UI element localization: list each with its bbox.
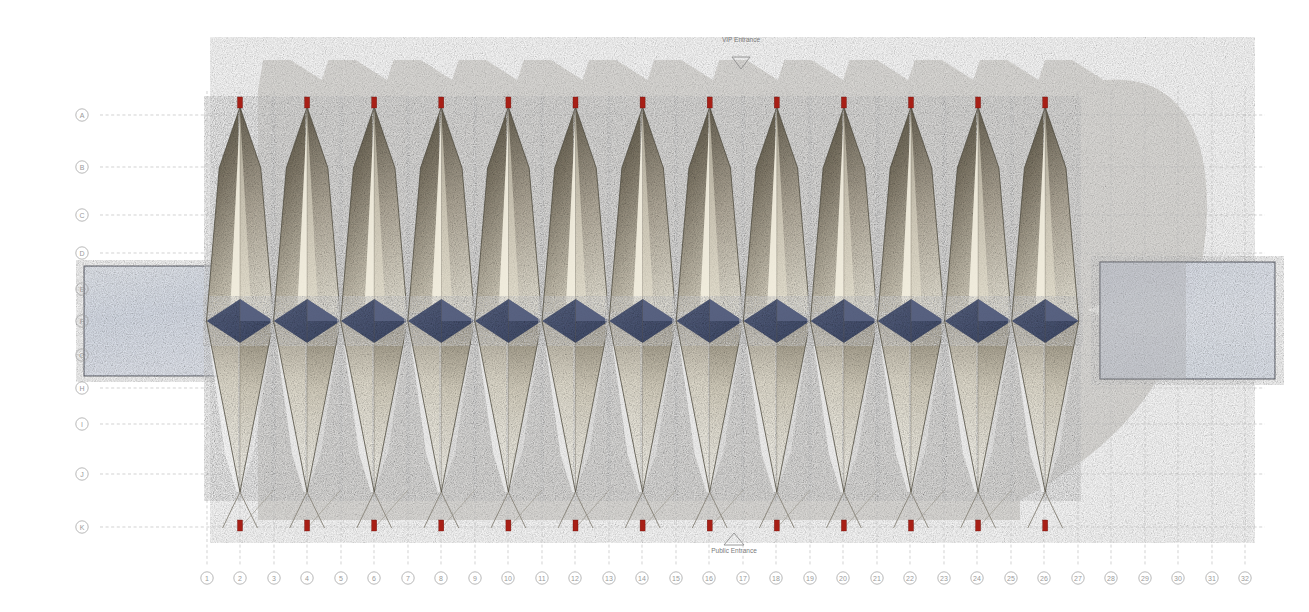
- grid-bubble-label: K: [80, 524, 85, 531]
- grid-bubble-label: 1: [205, 575, 209, 582]
- base-marker-bottom: [305, 520, 310, 531]
- grid-bubble-col-16[interactable]: 16: [703, 572, 715, 584]
- base-marker-bottom: [774, 520, 779, 531]
- grid-bubble-label: C: [79, 212, 84, 219]
- grid-bubble-col-14[interactable]: 14: [636, 572, 648, 584]
- grid-bubble-label: 3: [272, 575, 276, 582]
- grid-bubble-col-5[interactable]: 5: [335, 572, 347, 584]
- apex-marker-top: [573, 97, 578, 108]
- grid-bubble-label: 14: [638, 575, 646, 582]
- apex-marker-top: [640, 97, 645, 108]
- grid-bubble-label: 7: [406, 575, 410, 582]
- grid-bubble-col-29[interactable]: 29: [1139, 572, 1151, 584]
- grid-bubble-label: 6: [372, 575, 376, 582]
- apex-marker-top: [841, 97, 846, 108]
- grid-bubble-col-17[interactable]: 17: [737, 572, 749, 584]
- grid-bubble-col-26[interactable]: 26: [1038, 572, 1050, 584]
- grid-bubble-label: 22: [906, 575, 914, 582]
- grid-bubble-label: J: [80, 471, 84, 478]
- grid-bubble-col-3[interactable]: 3: [268, 572, 280, 584]
- grid-bubble-col-25[interactable]: 25: [1005, 572, 1017, 584]
- base-marker-bottom: [707, 520, 712, 531]
- grid-bubble-row-A[interactable]: A: [76, 109, 88, 121]
- apex-marker-top: [506, 97, 511, 108]
- grid-bubble-col-13[interactable]: 13: [603, 572, 615, 584]
- grid-bubble-label: 30: [1174, 575, 1182, 582]
- grid-bubble-col-15[interactable]: 15: [670, 572, 682, 584]
- grid-bubble-label: 19: [806, 575, 814, 582]
- grid-bubble-label: B: [80, 164, 85, 171]
- grid-bubble-label: E: [80, 286, 85, 293]
- grid-bubble-col-30[interactable]: 30: [1172, 572, 1184, 584]
- grid-bubble-label: 10: [504, 575, 512, 582]
- grid-bubble-label: I: [81, 421, 83, 428]
- grid-bubble-col-1[interactable]: 1: [201, 572, 213, 584]
- grid-bubble-row-J[interactable]: J: [76, 468, 88, 480]
- grid-bubble-col-6[interactable]: 6: [368, 572, 380, 584]
- grid-bubble-label: 23: [940, 575, 948, 582]
- apex-marker-top: [774, 97, 779, 108]
- grid-bubble-label: 5: [339, 575, 343, 582]
- grid-bubble-col-10[interactable]: 10: [502, 572, 514, 584]
- grid-bubble-col-19[interactable]: 19: [804, 572, 816, 584]
- apex-marker-top: [976, 97, 981, 108]
- base-marker-bottom: [1043, 520, 1048, 531]
- grid-bubble-col-8[interactable]: 8: [435, 572, 447, 584]
- public-entrance-triangle-up-icon: [724, 533, 744, 545]
- grid-bubble-col-27[interactable]: 27: [1072, 572, 1084, 584]
- apex-marker-top: [305, 97, 310, 108]
- grid-bubble-row-B[interactable]: B: [76, 161, 88, 173]
- grid-bubble-label: 28: [1107, 575, 1115, 582]
- grid-bubble-col-21[interactable]: 21: [871, 572, 883, 584]
- base-marker-bottom: [506, 520, 511, 531]
- grid-bubble-row-K[interactable]: K: [76, 521, 88, 533]
- grid-bubble-label: 32: [1241, 575, 1249, 582]
- grid-bubble-label: 29: [1141, 575, 1149, 582]
- grid-bubble-col-20[interactable]: 20: [837, 572, 849, 584]
- apex-marker-top: [372, 97, 377, 108]
- grid-bubble-label: F: [80, 318, 84, 325]
- public-entrance-label: Public Entrance: [711, 547, 757, 554]
- grid-bubble-col-18[interactable]: 18: [770, 572, 782, 584]
- grid-bubble-label: 2: [238, 575, 242, 582]
- apex-marker-top: [439, 97, 444, 108]
- base-marker-bottom: [841, 520, 846, 531]
- grid-bubble-col-9[interactable]: 9: [469, 572, 481, 584]
- grid-bubble-col-32[interactable]: 32: [1239, 572, 1251, 584]
- base-marker-bottom: [573, 520, 578, 531]
- base-marker-bottom: [640, 520, 645, 531]
- grid-bubble-row-C[interactable]: C: [76, 209, 88, 221]
- grid-bubble-label: D: [79, 250, 84, 257]
- grid-bubble-label: 20: [839, 575, 847, 582]
- grid-bubble-row-H[interactable]: H: [76, 382, 88, 394]
- grid-bubble-col-12[interactable]: 12: [569, 572, 581, 584]
- grid-bubble-label: 24: [973, 575, 981, 582]
- grid-bubble-col-22[interactable]: 22: [904, 572, 916, 584]
- grid-bubble-label: 13: [605, 575, 613, 582]
- grid-bubble-label: 25: [1007, 575, 1015, 582]
- grid-bubble-label: 12: [571, 575, 579, 582]
- grid-bubble-row-I[interactable]: I: [76, 418, 88, 430]
- grid-bubble-col-7[interactable]: 7: [402, 572, 414, 584]
- grid-bubble-col-4[interactable]: 4: [301, 572, 313, 584]
- grid-bubble-label: 27: [1074, 575, 1082, 582]
- base-marker-bottom: [238, 520, 243, 531]
- grid-bubble-label: H: [79, 385, 84, 392]
- grid-bubble-col-28[interactable]: 28: [1105, 572, 1117, 584]
- apex-marker-top: [909, 97, 914, 108]
- grid-bubble-label: 4: [305, 575, 309, 582]
- grid-bubble-col-11[interactable]: 11: [536, 572, 548, 584]
- grid-bubble-label: A: [80, 112, 85, 119]
- grid-bubble-row-D[interactable]: D: [76, 247, 88, 259]
- grid-bubble-label: 17: [739, 575, 747, 582]
- apex-marker-top: [238, 97, 243, 108]
- grid-bubble-label: 8: [439, 575, 443, 582]
- grid-bubble-col-23[interactable]: 23: [938, 572, 950, 584]
- public-entrance-annotation[interactable]: Public Entrance: [711, 533, 757, 554]
- grid-bubble-col-24[interactable]: 24: [971, 572, 983, 584]
- grid-bubble-label: 16: [705, 575, 713, 582]
- grid-bubble-label: 15: [672, 575, 680, 582]
- grid-bubble-col-31[interactable]: 31: [1206, 572, 1218, 584]
- grid-bubble-col-2[interactable]: 2: [234, 572, 246, 584]
- grid-bubble-label: 21: [873, 575, 881, 582]
